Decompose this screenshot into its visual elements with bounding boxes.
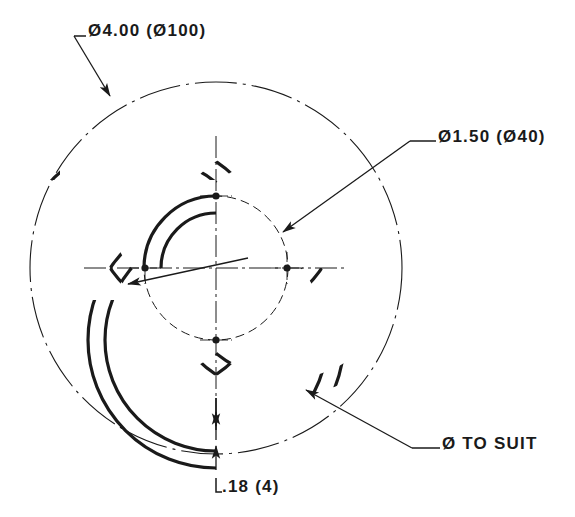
drawing-sheet: Ø4.00 (Ø100) Ø1.50 (Ø40) Ø TO SUIT .18 (… xyxy=(0,0,575,517)
dimension-label-hole: Ø TO SUIT xyxy=(442,435,538,452)
centre-lines xyxy=(84,136,348,400)
dimension-label-outer-diameter: Ø4.00 (Ø100) xyxy=(88,22,206,39)
dimension-label-band-thickness: .18 (4) xyxy=(222,478,280,495)
leader-outer-diameter xyxy=(74,36,110,96)
leader-hole xyxy=(306,390,440,448)
dimension-label-ring-diameter: Ø1.50 (Ø40) xyxy=(438,128,546,145)
